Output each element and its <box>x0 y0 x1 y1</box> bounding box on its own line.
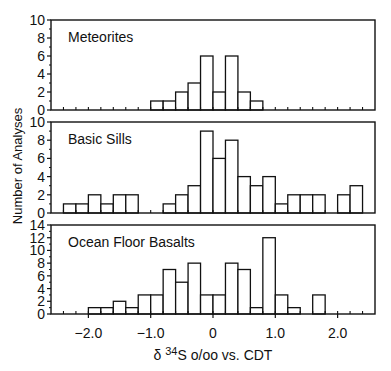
panel-title: Basic Sills <box>68 131 132 147</box>
histogram-bar <box>263 238 275 314</box>
histogram-bar <box>201 295 213 314</box>
histogram-bar <box>313 295 325 314</box>
histogram-bar <box>288 195 300 213</box>
panel-title: Ocean Floor Basalts <box>68 234 195 250</box>
x-tick-label: 1.0 <box>266 325 286 341</box>
panels: 0246810Meteorites0246810Basic Sills02468… <box>29 12 375 322</box>
histogram-bar <box>113 301 125 314</box>
histogram-bar <box>350 186 362 213</box>
histogram-bar <box>113 195 125 213</box>
y-tick-label: 6 <box>37 48 45 64</box>
histogram-bar <box>126 308 138 314</box>
histogram-bar <box>300 195 312 213</box>
histogram-bar <box>163 101 175 110</box>
x-tick-label: 2.0 <box>328 325 348 341</box>
histogram-bar <box>238 92 250 110</box>
panel-ocean-floor-basalts: 02468101214Ocean Floor Basalts <box>29 217 375 322</box>
histogram-bar <box>126 195 138 213</box>
y-tick-label: 10 <box>29 114 45 130</box>
x-axis-label: δ 34S o/oo vs. CDT <box>154 345 273 363</box>
histogram-bar <box>188 83 200 110</box>
x-tick-label: −2.0 <box>75 325 103 341</box>
histogram-bar <box>238 177 250 213</box>
histogram-bar <box>313 195 325 213</box>
histogram-bar <box>163 204 175 213</box>
y-tick-label: 14 <box>29 217 45 233</box>
histogram-bar <box>151 295 163 314</box>
histogram-bar <box>101 204 113 213</box>
histogram-bar <box>176 195 188 213</box>
histogram-bar <box>275 295 287 314</box>
histogram-bar <box>250 101 262 110</box>
histogram-bar <box>213 295 225 314</box>
histogram-bar <box>163 270 175 315</box>
panel-basic-sills: 0246810Basic Sills <box>29 114 375 221</box>
histogram-bar <box>176 92 188 110</box>
histogram-bar <box>138 295 150 314</box>
histogram-bar <box>238 270 250 315</box>
histogram-bar <box>188 263 200 314</box>
y-tick-label: 6 <box>37 150 45 166</box>
histogram-figure: 0246810Meteorites0246810Basic Sills02468… <box>0 0 391 371</box>
panel-meteorites: 0246810Meteorites <box>29 12 375 118</box>
y-tick-label: 4 <box>37 66 45 82</box>
histogram-bar <box>101 308 113 314</box>
y-tick-label: 2 <box>37 187 45 203</box>
histogram-bar <box>275 204 287 213</box>
histogram-bar <box>225 56 237 110</box>
histogram-bar <box>225 140 237 213</box>
histogram-bar <box>188 186 200 213</box>
y-tick-label: 8 <box>37 30 45 46</box>
x-tick-label: 0 <box>209 325 217 341</box>
histogram-bar <box>151 101 163 110</box>
histogram-bar <box>201 131 213 213</box>
histogram-bar <box>88 308 100 314</box>
panel-title: Meteorites <box>68 29 133 45</box>
histogram-bar <box>288 308 300 314</box>
histogram-bar <box>225 263 237 314</box>
y-tick-label: 2 <box>37 84 45 100</box>
y-axis-label: Number of Analyses <box>10 107 25 224</box>
histogram-bar <box>213 158 225 213</box>
y-tick-label: 8 <box>37 132 45 148</box>
histogram-bar <box>88 195 100 213</box>
histogram-bar <box>213 92 225 110</box>
histogram-bar <box>76 204 88 213</box>
y-tick-label: 10 <box>29 12 45 28</box>
histogram-bar <box>201 56 213 110</box>
histogram-bar <box>250 186 262 213</box>
x-tick-label: −1.0 <box>137 325 165 341</box>
y-tick-label: 4 <box>37 169 45 185</box>
histogram-bar <box>338 195 350 213</box>
histogram-bar <box>63 204 75 213</box>
x-axis: −2.0−1.001.02.0δ 34S o/oo vs. CDT <box>75 314 348 363</box>
chart-canvas: 0246810Meteorites0246810Basic Sills02468… <box>0 0 391 371</box>
histogram-bar <box>263 177 275 213</box>
histogram-bar <box>250 308 262 314</box>
histogram-bar <box>176 282 188 314</box>
